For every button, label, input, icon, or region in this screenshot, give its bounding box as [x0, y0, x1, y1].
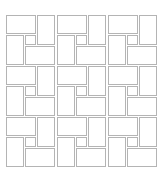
tile-vertical-bottom-left: [6, 35, 24, 65]
tile-horizontal-bottom-right: [76, 148, 106, 167]
tile-vertical-bottom-left: [57, 86, 75, 116]
tile-center-square: [127, 137, 138, 147]
tile-vertical-bottom-left: [108, 86, 126, 116]
tile-vertical-bottom-left: [6, 137, 24, 167]
tile-vertical-top-right: [139, 117, 157, 147]
tile-horizontal-bottom-right: [127, 148, 157, 167]
tile-horizontal-bottom-right: [127, 97, 157, 116]
tile-vertical-top-right: [37, 15, 55, 45]
tile-center-square: [25, 137, 36, 147]
tile-horizontal-bottom-right: [25, 97, 55, 116]
tile-horizontal-bottom-right: [25, 46, 55, 65]
tile-horizontal-top-left: [108, 117, 138, 136]
tile-horizontal-bottom-right: [76, 97, 106, 116]
tile-vertical-bottom-left: [57, 137, 75, 167]
tile-center-square: [76, 137, 87, 147]
tiling-diagram: [0, 0, 160, 181]
tile-horizontal-top-left: [57, 66, 87, 85]
tile-vertical-bottom-left: [6, 86, 24, 116]
tile-vertical-top-right: [88, 15, 106, 45]
tile-vertical-top-right: [139, 66, 157, 96]
tile-horizontal-top-left: [108, 66, 138, 85]
tile-vertical-top-right: [37, 66, 55, 96]
tile-center-square: [127, 86, 138, 96]
tile-vertical-top-right: [88, 66, 106, 96]
tile-horizontal-bottom-right: [127, 46, 157, 65]
tile-vertical-bottom-left: [108, 35, 126, 65]
tile-horizontal-top-left: [6, 15, 36, 34]
tile-horizontal-top-left: [57, 15, 87, 34]
tile-horizontal-top-left: [6, 117, 36, 136]
tile-center-square: [127, 35, 138, 45]
tile-horizontal-top-left: [6, 66, 36, 85]
tile-center-square: [25, 35, 36, 45]
tile-center-square: [25, 86, 36, 96]
tile-horizontal-bottom-right: [76, 46, 106, 65]
tile-vertical-bottom-left: [57, 35, 75, 65]
tile-center-square: [76, 35, 87, 45]
tile-vertical-top-right: [88, 117, 106, 147]
tile-horizontal-top-left: [108, 15, 138, 34]
tile-vertical-top-right: [37, 117, 55, 147]
tile-horizontal-top-left: [57, 117, 87, 136]
tile-vertical-top-right: [139, 15, 157, 45]
tile-center-square: [76, 86, 87, 96]
tile-vertical-bottom-left: [108, 137, 126, 167]
tile-horizontal-bottom-right: [25, 148, 55, 167]
